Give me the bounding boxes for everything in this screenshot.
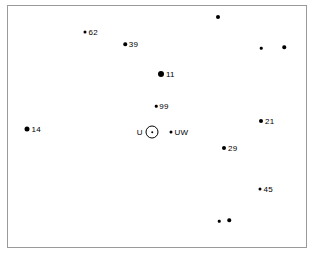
data-point-UW: [170, 131, 173, 134]
point-label-UW: UW: [175, 129, 189, 137]
data-point-unlabeled-4: [218, 220, 221, 223]
data-point-99: [155, 105, 158, 108]
point-label-21: 21: [265, 118, 274, 126]
point-label-39: 39: [129, 41, 138, 49]
scatter-plot-figure: 623911992114UW2945 U: [0, 0, 315, 258]
data-point-62: [84, 31, 87, 34]
point-label-62: 62: [89, 29, 98, 37]
sun-symbol-icon: [146, 126, 159, 139]
data-point-unlabeled-3: [282, 45, 286, 49]
data-point-unlabeled-1: [216, 15, 220, 19]
data-point-39: [123, 42, 127, 46]
point-label-45: 45: [264, 186, 273, 194]
data-point-21: [259, 119, 263, 123]
data-point-unlabeled-2: [260, 47, 263, 50]
data-point-29: [222, 146, 226, 150]
sun-label: U: [137, 129, 143, 137]
data-point-45: [259, 188, 262, 191]
point-label-14: 14: [32, 126, 41, 134]
point-label-11: 11: [166, 71, 175, 79]
plot-frame: 623911992114UW2945 U: [7, 5, 307, 248]
data-point-14: [25, 127, 30, 132]
data-point-11: [158, 71, 164, 77]
point-label-99: 99: [159, 103, 168, 111]
data-point-unlabeled-5: [227, 218, 231, 222]
point-label-29: 29: [228, 145, 237, 153]
